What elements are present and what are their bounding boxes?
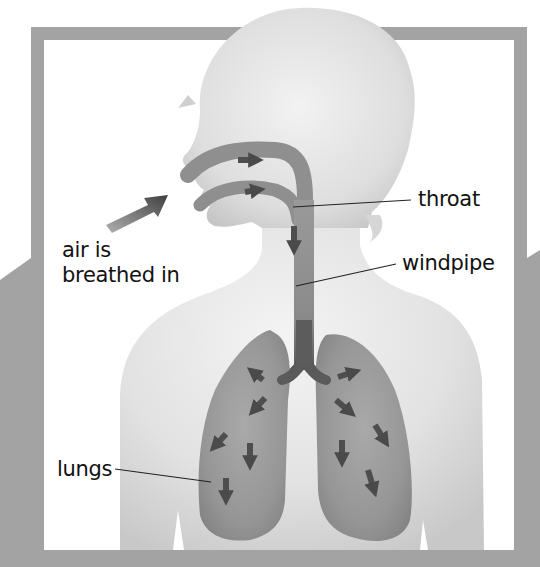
label-lungs: lungs — [57, 456, 112, 482]
label-air-in-line2: breathed in — [62, 262, 180, 288]
label-air-in-line1: air is — [62, 237, 111, 263]
air-in-arrow-icon — [106, 195, 168, 233]
respiratory-diagram: air is breathed in throat windpipe lungs — [0, 0, 540, 567]
arrow-icon — [245, 190, 258, 192]
label-throat: throat — [418, 186, 480, 212]
label-windpipe: windpipe — [402, 250, 495, 276]
